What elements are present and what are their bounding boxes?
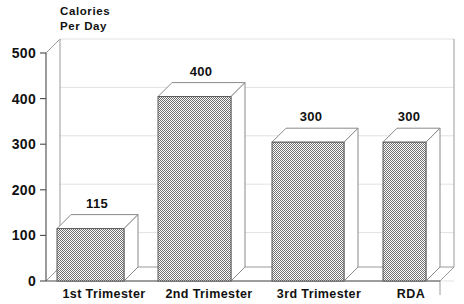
bar-value-label-1: 115 [86, 196, 108, 211]
x-category-label-3: 3rd Trimester [277, 287, 361, 301]
y-tick-label-400: 400 [12, 91, 36, 107]
chart-container: 0 100 200 300 400 500 Calories Per Day 1… [0, 0, 464, 304]
bar-side-face-4 [426, 128, 440, 281]
y-axis-tick-labels: 0 100 200 300 400 500 [12, 45, 36, 289]
bar-value-label-4: 300 [398, 109, 421, 124]
bar-group-2nd-trimester[interactable]: 400 [158, 64, 245, 281]
bar-front-face-3 [272, 142, 344, 281]
y-tick-label-0: 0 [28, 273, 36, 289]
bar-front-face-2 [158, 97, 231, 281]
bar-top-face-2 [158, 83, 245, 97]
bar-value-label-2: 400 [190, 64, 213, 79]
y-axis-title-line1: Calories [60, 5, 110, 17]
y-tick-label-100: 100 [12, 227, 36, 243]
y-tick-label-300: 300 [12, 136, 36, 152]
bar-group-3rd-trimester[interactable]: 300 [272, 109, 358, 281]
y-axis-title-line2: Per Day [60, 20, 107, 32]
bar-side-face-3 [344, 128, 358, 281]
x-category-label-1: 1st Trimester [62, 287, 145, 301]
y-tick-label-500: 500 [12, 45, 36, 61]
y-tick-label-200: 200 [12, 182, 36, 198]
x-category-label-2: 2nd Trimester [165, 287, 252, 301]
bar-value-label-3: 300 [300, 109, 323, 124]
bar-front-face-4 [383, 142, 426, 281]
bar-front-face-1 [57, 229, 124, 281]
x-category-label-4: RDA [397, 287, 425, 301]
bar-chart: 0 100 200 300 400 500 Calories Per Day 1… [0, 0, 464, 304]
y-axis-title: Calories Per Day [60, 5, 110, 32]
bar-group-rda[interactable]: 300 [383, 109, 440, 281]
bar-top-face-3 [272, 128, 358, 142]
x-axis-category-labels: 1st Trimester 2nd Trimester 3rd Trimeste… [62, 287, 425, 301]
bar-side-face-2 [231, 83, 245, 281]
y-axis-ticks [40, 53, 46, 281]
